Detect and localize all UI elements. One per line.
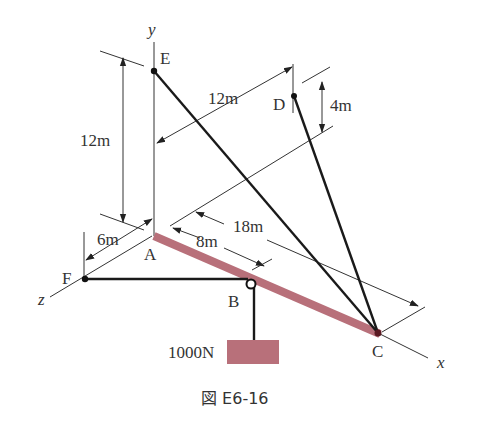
guide-line-e-top [100,51,144,66]
point-c [375,330,382,337]
dim-height-d-label: 4m [330,96,352,115]
y-axis-label: y [146,20,156,39]
load-label: 1000N [168,343,214,362]
dim-x-ab-tick [252,259,272,270]
guide-line-ab [170,126,333,226]
label-b: B [228,292,239,311]
x-axis-label: x [436,353,445,372]
dim-z-af-label: 6m [97,230,119,249]
dim-x-ac-label: 18m [233,217,263,236]
point-f [82,276,88,282]
cable-cd [294,96,378,333]
dim-width-ed-label: 12m [208,89,238,108]
dim-x-ac-left [196,212,224,224]
label-e: E [160,49,170,68]
point-e [151,68,157,74]
label-f: F [62,269,71,288]
dim-x-ac-tick [382,307,425,332]
dim-x-ab-label: 8m [196,232,218,251]
x-axis [380,334,428,358]
statics-diagram: y z x E D A B C F 12m 12m 4m 6m 8m 18m 1… [0,0,481,433]
label-d: D [273,95,285,114]
point-d [291,93,297,99]
guide-line-d-top [302,67,330,83]
dim-x-ab-right [224,248,264,266]
weight-block [227,340,279,364]
label-a: A [144,245,157,264]
dim-z-af [86,219,152,260]
z-axis-label: z [37,290,45,309]
dim-height-e-label: 12m [80,131,110,150]
label-c: C [372,342,383,361]
beam-ac [154,236,380,334]
figure-caption: 図 E6-16 [201,389,269,408]
pulley-b [247,280,256,289]
